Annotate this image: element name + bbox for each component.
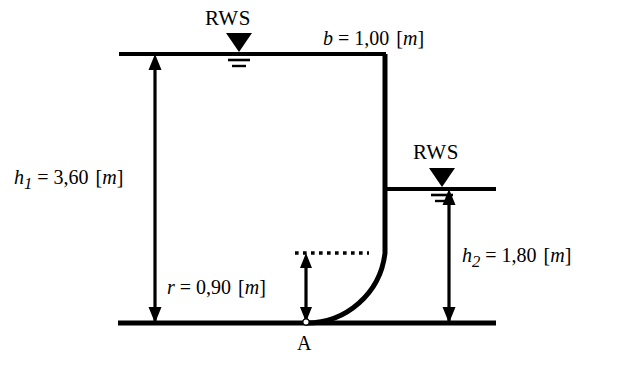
h1-dimension-label: h1=3,60[m] [14, 167, 123, 193]
h2-value: 1,80 [502, 244, 537, 266]
h2-subscript: 2 [472, 252, 480, 271]
b-unit-close: ] [417, 27, 424, 49]
point-a-marker [303, 319, 309, 325]
h2-unit: m [550, 244, 564, 266]
curved-gate-profile [306, 54, 385, 323]
b-dimension-label: b=1,00[m] [323, 28, 424, 48]
h1-value: 3,60 [54, 166, 89, 188]
rws-left-label: RWS [205, 8, 251, 29]
r-unit-open: [ [238, 276, 245, 298]
h1-dimension-arrow [149, 54, 162, 323]
h1-unit: m [102, 166, 116, 188]
point-a-label: A [297, 333, 311, 353]
b-unit: m [403, 27, 417, 49]
rws-left-water-level-symbol [226, 33, 252, 66]
b-value: 1,00 [354, 27, 389, 49]
h1-arrowhead-top [149, 54, 162, 70]
r-arrowhead-top [300, 253, 312, 268]
h1-subscript: 1 [24, 174, 32, 193]
rws-right-triangle-icon [429, 168, 455, 187]
h2-dimension-label: h2=1,80[m] [462, 245, 571, 271]
h1-symbol: h [14, 166, 24, 188]
hydrostatic-diagram-figure: RWS RWS b=1,00[m] h1=3,60[m] h2=1,80[m] … [0, 0, 635, 365]
r-dimension-label: r=0,90[m] [167, 277, 266, 297]
b-symbol: b [323, 27, 333, 49]
h2-symbol: h [462, 244, 472, 266]
h1-equals: = [37, 166, 48, 188]
r-dimension-arrow [300, 253, 312, 322]
rws-left-triangle-icon [226, 33, 252, 52]
h2-unit-close: ] [565, 244, 572, 266]
r-unit-close: ] [259, 276, 266, 298]
h2-equals: = [485, 244, 496, 266]
r-value: 0,90 [196, 276, 231, 298]
b-equals: = [338, 27, 349, 49]
r-symbol: r [167, 276, 175, 298]
h1-unit-close: ] [117, 166, 124, 188]
r-unit: m [245, 276, 259, 298]
h2-arrowhead-top [443, 189, 456, 205]
r-equals: = [180, 276, 191, 298]
rws-right-label: RWS [413, 142, 459, 163]
rws-right-water-level-symbol [429, 168, 455, 201]
h2-dimension-arrow [443, 189, 456, 323]
b-unit-open: [ [396, 27, 403, 49]
